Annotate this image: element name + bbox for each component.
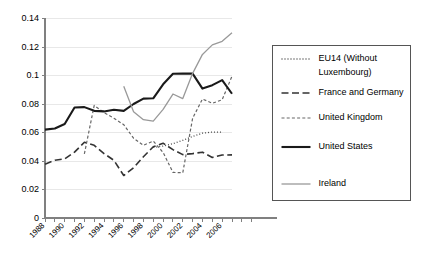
x-axis-label: 2000 [146, 221, 165, 240]
x-axis-label: 1996 [106, 221, 125, 240]
x-axis-label: 1992 [67, 221, 86, 240]
legend-label-line2: Luxembourg) [319, 67, 372, 77]
y-axis-label: 0 [34, 213, 39, 223]
series-line-ireland [124, 33, 232, 121]
x-axis-label: 1988 [27, 221, 46, 240]
x-axis-label: 1990 [47, 221, 66, 240]
y-axis-label: 0.02 [21, 184, 39, 194]
y-axis-label: 0.14 [21, 13, 39, 23]
legend-label: United States [319, 141, 374, 151]
y-axis-label: 0.08 [21, 99, 39, 109]
legend-label: United Kingdom [319, 112, 383, 122]
x-axis-label: 1998 [126, 221, 145, 240]
series-line-united-states [45, 74, 232, 130]
series-line-france-and-germany [45, 142, 232, 175]
line-chart-svg: 00.020.040.060.080.10.120.14198819901992… [0, 0, 422, 266]
legend-label: EU14 (Without [319, 53, 378, 63]
x-axis-label: 2006 [205, 221, 224, 240]
y-axis-label: 0.04 [21, 156, 39, 166]
chart-figure: 00.020.040.060.080.10.120.14198819901992… [0, 0, 422, 266]
y-axis-label: 0.1 [26, 70, 39, 80]
legend-label: Ireland [319, 178, 347, 188]
x-axis-label: 1994 [87, 221, 106, 240]
x-axis-label: 2004 [185, 221, 204, 240]
y-axis-label: 0.12 [21, 42, 39, 52]
x-axis-label: 2002 [165, 221, 184, 240]
y-axis-label: 0.06 [21, 127, 39, 137]
legend-label: France and Germany [319, 87, 405, 97]
